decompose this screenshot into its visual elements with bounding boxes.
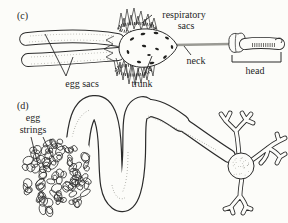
egg-sacs-label: egg sacs bbox=[65, 78, 99, 89]
neck-label: neck bbox=[187, 55, 206, 66]
egg-strings-mass bbox=[18, 136, 94, 217]
panel-d: (d) egg strings bbox=[17, 100, 285, 218]
head-cylinder bbox=[245, 38, 282, 45]
panel-d-tag: (d) bbox=[17, 100, 29, 112]
egg-strings-label-line1: egg bbox=[26, 112, 40, 123]
body-tube bbox=[70, 107, 229, 200]
egg-sac-upper bbox=[26, 34, 118, 42]
respiratory-sacs-label-line1: respiratory bbox=[162, 9, 205, 20]
holdfast-bulb bbox=[228, 153, 254, 179]
panel-c: (c) respiratory sacs egg sacs trunk neck… bbox=[17, 8, 282, 89]
holdfast bbox=[221, 113, 285, 213]
trunk-label: trunk bbox=[131, 78, 152, 89]
anatomy-figure-canvas: (c) respiratory sacs egg sacs trunk neck… bbox=[0, 0, 288, 223]
panel-c-tag: (c) bbox=[17, 10, 28, 22]
respiratory-sacs-label-line2: sacs bbox=[178, 20, 195, 31]
head-label: head bbox=[246, 65, 265, 76]
neck-tube bbox=[174, 44, 230, 45]
trunk-body bbox=[119, 29, 177, 67]
head-bracket bbox=[232, 52, 281, 62]
neck-leader-line bbox=[184, 46, 191, 55]
figure-page: (c) respiratory sacs egg sacs trunk neck… bbox=[0, 0, 288, 223]
egg-strings-label-line2: strings bbox=[20, 124, 47, 135]
